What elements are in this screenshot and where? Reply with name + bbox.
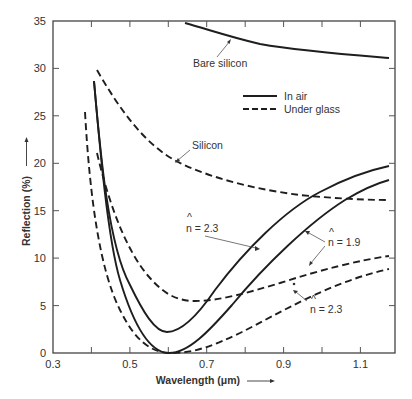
annotation-n19: ^ n = 1.9 (305, 226, 361, 266)
stray-dot (293, 283, 296, 286)
x-tick-0.5: 0.5 (122, 358, 137, 370)
x-tick-0.3: 0.3 (45, 358, 60, 370)
svg-text:Silicon: Silicon (192, 139, 223, 151)
legend-under-glass: Under glass (284, 103, 340, 115)
annotation-bare-silicon: Bare silicon (193, 39, 247, 69)
y-tick-labels: 0 5 10 15 20 25 30 35 (34, 15, 46, 359)
curve-bare-silicon (185, 23, 389, 58)
y-tick-30: 30 (34, 62, 46, 74)
x-tick-1.1: 1.1 (353, 358, 368, 370)
y-tick-25: 25 (34, 110, 46, 122)
y-axis-title: Reflection (%) (20, 176, 32, 246)
y-tick-15: 15 (34, 205, 46, 217)
legend-in-air: In air (284, 90, 308, 102)
curve-glass-n19 (97, 153, 389, 301)
x-axis-title: Wavelength (μm) (156, 374, 240, 386)
y-axis-arrow-icon (25, 137, 29, 166)
y-tick-5: 5 (40, 300, 46, 312)
svg-text:n = 1.9: n = 1.9 (328, 236, 361, 248)
x-tick-0.9: 0.9 (276, 358, 291, 370)
reflection-chart: 0 5 10 15 20 25 30 35 0.3 0.5 0.7 0.9 1.… (0, 0, 412, 399)
legend: In air Under glass (243, 90, 340, 115)
x-axis-arrow-icon (247, 379, 275, 383)
y-tick-35: 35 (34, 15, 46, 27)
svg-text:n = 2.3: n = 2.3 (186, 222, 219, 234)
annotation-silicon: Silicon (175, 139, 223, 163)
x-tick-labels: 0.3 0.5 0.7 0.9 1.1 (45, 358, 368, 370)
x-tick-0.7: 0.7 (199, 358, 214, 370)
curve-glass-n23 (85, 112, 389, 353)
y-tick-20: 20 (34, 157, 46, 169)
svg-text:n = 2.3: n = 2.3 (310, 303, 343, 315)
svg-text:Bare silicon: Bare silicon (193, 57, 247, 69)
curve-air-n19 (94, 81, 389, 353)
y-tick-10: 10 (34, 252, 46, 264)
annotation-n23-air: ^ n = 2.3 (186, 211, 260, 251)
